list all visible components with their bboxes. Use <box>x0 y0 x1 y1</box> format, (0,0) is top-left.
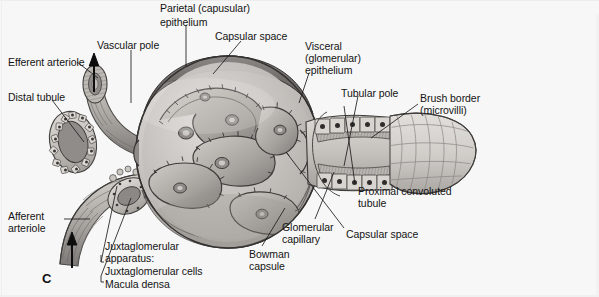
label-macula-densa: Macula densa <box>105 279 170 291</box>
label-capsular-space-top: Capsular space <box>215 31 287 43</box>
leader-visceral-epithelium <box>299 73 309 103</box>
label-proximal-convoluted-line1: Proximal convoluted <box>358 186 452 198</box>
label-afferent-arteriole-line1: Afferent <box>8 211 44 223</box>
label-bowman-capsule-line1: Bowman <box>249 249 290 261</box>
label-bowman-capsule-line2: capsule <box>249 261 285 273</box>
label-parietal-epithelium-line1: Parietal (capusular) <box>160 3 250 15</box>
figure-panel-label: C <box>42 271 51 286</box>
label-efferent-arteriole: Efferent arteriole <box>8 57 85 69</box>
label-juxtaglomerular-apparatus-line1: Juxtaglomerular <box>105 241 179 253</box>
label-vascular-pole: Vascular pole <box>97 40 159 52</box>
label-glomerular-capillary-line2: capillary <box>282 234 320 246</box>
label-brush-border-line2: (microvilli) <box>420 105 467 117</box>
label-glomerular-capillary-line1: Glomerular <box>282 222 333 234</box>
label-proximal-convoluted-line2: tubule <box>358 198 386 210</box>
label-distal-tubule: Distal tubule <box>8 92 65 104</box>
leader-distal-tubule <box>52 100 84 142</box>
figure-canvas: Efferent arteriole Distal tubule Vascula… <box>0 0 599 297</box>
leader-capsular-space-bottom <box>286 152 344 228</box>
leader-brush-border <box>371 104 418 138</box>
label-afferent-arteriole-line2: arteriole <box>8 223 46 235</box>
label-brush-border-line1: Brush border <box>420 93 480 105</box>
label-visceral-epithelium-line3: epithelium <box>305 65 352 77</box>
leader-macula-densa-bracket <box>101 276 104 282</box>
leader-glomerular-capillary <box>315 172 334 219</box>
label-tubular-pole: Tubular pole <box>341 88 398 100</box>
label-juxtaglomerular-apparatus-line2: apparatus: <box>105 253 154 265</box>
label-capsular-space-bottom: Capsular space <box>346 229 418 241</box>
label-juxtaglomerular-cells: Juxtaglomerular cells <box>105 266 203 278</box>
label-visceral-epithelium-line2: (glomerular) <box>305 53 361 65</box>
label-parietal-epithelium-line2: epithelium <box>160 17 207 29</box>
leader-capsular-space-top <box>213 41 241 74</box>
label-leader-lines <box>0 0 599 297</box>
label-visceral-epithelium-line1: Visceral <box>305 41 342 53</box>
